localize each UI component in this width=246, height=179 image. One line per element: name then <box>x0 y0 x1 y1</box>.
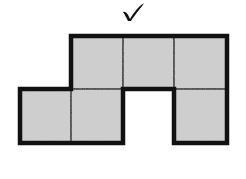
unit-square-r0-c1 <box>71 36 123 89</box>
unit-square-r1-c1 <box>71 89 123 143</box>
unit-square-r1-c0 <box>20 89 71 143</box>
check-icon <box>123 3 144 21</box>
shape-figure <box>0 0 246 179</box>
unit-square-r0-c2 <box>123 36 174 89</box>
unit-square-r1-c3 <box>174 89 227 143</box>
unit-square-r0-c3 <box>174 36 227 89</box>
